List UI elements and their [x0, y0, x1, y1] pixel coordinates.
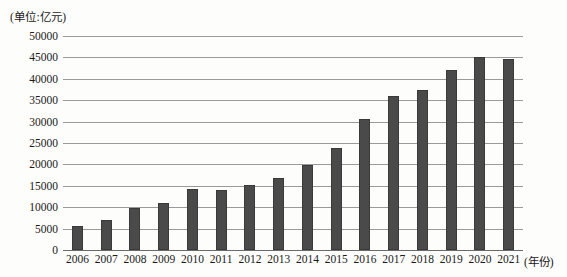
x-axis-title: (年份) — [524, 253, 554, 269]
bar — [417, 90, 428, 251]
bar — [359, 119, 370, 250]
bar — [129, 208, 140, 250]
bar — [244, 185, 255, 250]
x-axis-tick-label: 2007 — [95, 253, 118, 265]
x-axis-tick-label: 2008 — [123, 253, 146, 265]
x-axis-tick-labels: 2006200720082009201020112012201320142015… — [63, 253, 523, 273]
x-axis-tick-label: 2009 — [152, 253, 175, 265]
plot-area — [63, 36, 523, 250]
bar — [273, 178, 284, 250]
bar — [187, 189, 198, 250]
y-axis-tick-label: 35000 — [29, 94, 58, 106]
bar — [331, 148, 342, 250]
x-axis-tick-label: 2012 — [238, 253, 261, 265]
y-axis-unit-caption: (单位:亿元) — [10, 8, 66, 24]
y-axis-tick-label: 15000 — [29, 180, 58, 192]
bar — [388, 96, 399, 251]
x-axis-tick-label: 2015 — [325, 253, 348, 265]
bar — [216, 190, 227, 250]
gridline — [63, 57, 523, 58]
gridline — [63, 36, 523, 37]
y-axis-tick-label: 0 — [52, 244, 58, 256]
x-axis-tick-label: 2014 — [296, 253, 319, 265]
y-axis-tick-label: 40000 — [29, 73, 58, 85]
bar — [101, 220, 112, 250]
x-axis-tick-label: 2020 — [468, 253, 491, 265]
x-axis-tick-label: 2010 — [181, 253, 204, 265]
y-axis-tick-label: 45000 — [29, 51, 58, 63]
x-axis-tick-label: 2016 — [353, 253, 376, 265]
x-axis-tick-label: 2019 — [440, 253, 463, 265]
y-axis-tick-labels: 5000045000400003500030000250002000015000… — [0, 36, 58, 250]
y-axis-tick-label: 10000 — [29, 201, 58, 213]
bar — [158, 203, 169, 250]
y-axis-tick-label: 50000 — [29, 30, 58, 42]
y-axis-tick-label: 25000 — [29, 137, 58, 149]
x-axis-tick-label: 2018 — [411, 253, 434, 265]
y-axis-tick-label: 30000 — [29, 116, 58, 128]
x-axis-tick-label: 2021 — [497, 253, 520, 265]
bar-chart: (单位:亿元) 50000450004000035000300002500020… — [0, 0, 567, 277]
y-axis-tick-label: 20000 — [29, 158, 58, 170]
bar — [446, 70, 457, 250]
x-axis-tick-label: 2011 — [210, 253, 233, 265]
bar — [302, 165, 313, 250]
x-axis-tick-label: 2017 — [382, 253, 405, 265]
gridline — [63, 250, 523, 251]
x-axis-tick-label: 2006 — [66, 253, 89, 265]
bar — [503, 59, 514, 250]
bar — [72, 226, 83, 250]
bar — [474, 57, 485, 250]
y-axis-tick-label: 5000 — [35, 223, 58, 235]
x-axis-tick-label: 2013 — [267, 253, 290, 265]
